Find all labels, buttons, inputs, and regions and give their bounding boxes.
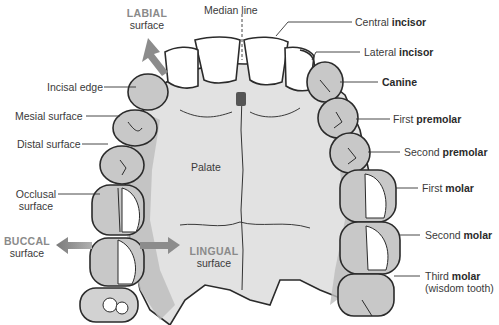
lingual-caps: LINGUAL: [186, 245, 242, 257]
incisive-papilla: [236, 92, 246, 106]
buccal-caps: BUCCAL: [2, 235, 52, 247]
buccal-sub: surface: [2, 247, 52, 259]
first-molar-label: First molar: [422, 182, 474, 194]
buccal-surface-label: BUCCAL surface: [2, 235, 52, 259]
lingual-surface-label: LINGUAL surface: [186, 245, 242, 269]
distal-surface-label: Distal surface: [17, 138, 81, 150]
buccal-arrow: [56, 237, 92, 254]
labial-caps: LABIAL: [122, 7, 172, 19]
labial-surface-label: LABIAL surface: [122, 7, 172, 31]
labial-arrow: [142, 38, 168, 76]
labial-sub: surface: [122, 19, 172, 31]
wisdom-tooth-note: (wisdom tooth): [425, 282, 494, 294]
occlusal-surface-label: Occlusal surface: [14, 188, 58, 212]
occlusal-line2: surface: [14, 200, 58, 212]
central-incisor-label: Central incisor: [355, 16, 426, 28]
canine-label: Canine: [382, 76, 417, 88]
palate-label: Palate: [191, 161, 221, 173]
mesial-surface-label: Mesial surface: [15, 110, 83, 122]
incisal-edge-label: Incisal edge: [47, 81, 103, 93]
lingual-sub: surface: [186, 257, 242, 269]
second-molar-label: Second molar: [425, 229, 492, 241]
second-premolar-label: Second premolar: [404, 146, 487, 158]
occlusal-line1: Occlusal: [14, 188, 58, 200]
median-line-label: Median line: [204, 4, 258, 16]
lateral-incisor-label: Lateral incisor: [364, 46, 433, 58]
third-molar-label: Third molar (wisdom tooth): [425, 270, 494, 294]
first-premolar-label: First premolar: [393, 113, 461, 125]
